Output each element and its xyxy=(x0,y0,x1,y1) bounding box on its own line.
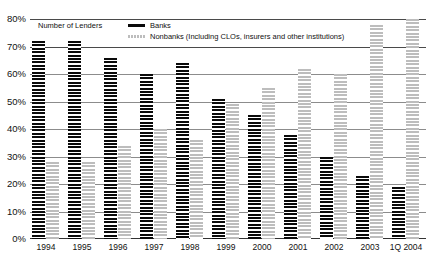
legend-item: Banks xyxy=(128,21,344,30)
banks-swatch xyxy=(128,24,145,27)
bar-banks xyxy=(176,63,189,239)
bar-nonbanks xyxy=(262,88,275,239)
gridline xyxy=(30,47,426,48)
bar-nonbanks xyxy=(46,162,59,239)
bar-nonbanks xyxy=(118,146,131,240)
legend-label: Nonbanks (Including CLOs, insurers and o… xyxy=(150,32,344,41)
y-axis-tick: 20% xyxy=(0,179,26,188)
bar-nonbanks xyxy=(370,25,383,240)
x-axis-tick: 1Q 2004 xyxy=(384,242,428,252)
bar-banks xyxy=(392,187,405,239)
bar-nonbanks xyxy=(334,74,347,239)
y-axis-tick: 30% xyxy=(0,152,26,161)
bar-banks xyxy=(284,135,297,240)
bar-nonbanks xyxy=(226,104,239,239)
y-axis-tick: 10% xyxy=(0,207,26,216)
gridline xyxy=(30,19,426,20)
bar-banks xyxy=(248,115,261,239)
bar-banks xyxy=(320,157,333,240)
bar-banks xyxy=(68,41,81,239)
legend-item: Nonbanks (Including CLOs, insurers and o… xyxy=(128,32,344,41)
bar-banks xyxy=(140,74,153,239)
chart-container: 80%70%60%50%40%30%20%10%0% 1994199519961… xyxy=(0,0,431,272)
legend-title: Number of Lenders xyxy=(38,21,102,30)
bar-banks xyxy=(104,58,117,240)
y-axis-tick: 70% xyxy=(0,42,26,51)
bar-banks xyxy=(356,176,369,239)
gridline xyxy=(30,102,426,103)
gridline xyxy=(30,74,426,75)
legend-entries: BanksNonbanks (Including CLOs, insurers … xyxy=(128,21,344,43)
bar-nonbanks xyxy=(298,69,311,240)
y-axis-tick: 60% xyxy=(0,69,26,78)
bar-banks xyxy=(32,41,45,239)
bar-nonbanks xyxy=(190,140,203,239)
bar-banks xyxy=(212,99,225,239)
legend-label: Banks xyxy=(150,21,171,30)
bar-nonbanks xyxy=(154,129,167,239)
bar-nonbanks xyxy=(82,162,95,239)
plot-area xyxy=(30,19,426,239)
bar-nonbanks xyxy=(406,19,419,239)
y-axis-tick: 50% xyxy=(0,97,26,106)
nonbanks-swatch xyxy=(128,35,145,38)
y-axis-tick: 40% xyxy=(0,124,26,133)
y-axis-tick: 0% xyxy=(0,234,26,243)
y-axis-tick: 80% xyxy=(0,14,26,23)
